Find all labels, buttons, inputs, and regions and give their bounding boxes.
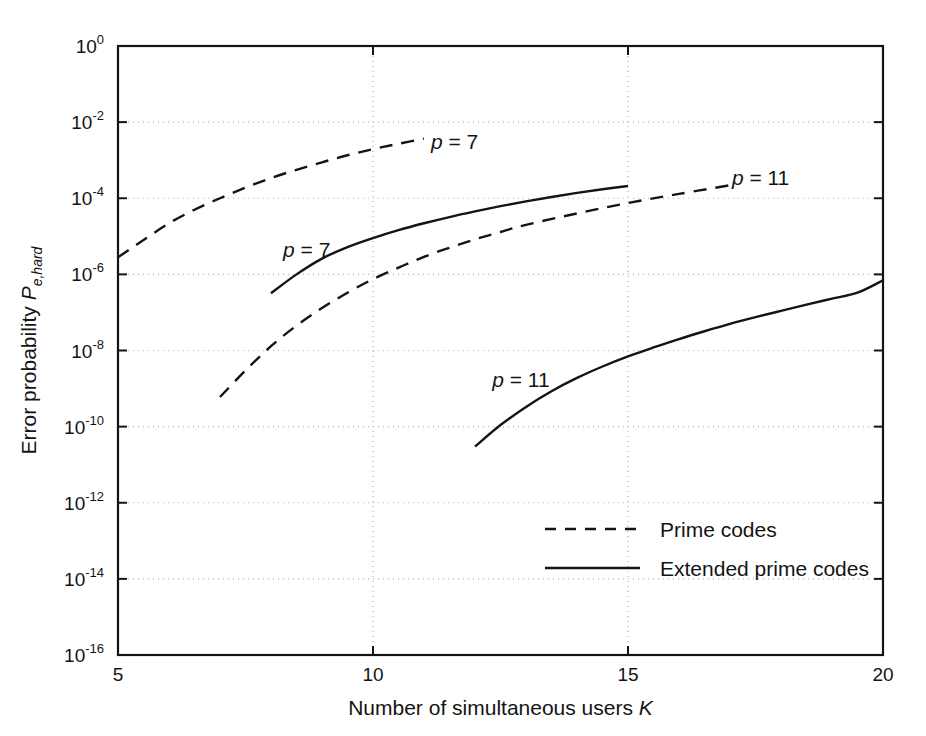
chart-background [0,0,926,736]
curve-annotation-3: p = 11 [491,368,549,391]
x-tick-label: 15 [617,664,638,685]
legend-label-1: Extended prime codes [660,557,869,580]
curve-annotation-1: p = 7 [282,238,330,261]
x-tick-label: 20 [872,664,893,685]
x-tick-label: 10 [362,664,383,685]
x-tick-label: 5 [113,664,124,685]
curve-annotation-2: p = 11 [731,166,789,189]
chart-canvas: 5101520 10010-210-410-610-810-1010-1210-… [0,0,926,736]
figure-container: 5101520 10010-210-410-610-810-1010-1210-… [0,0,926,736]
curve-annotation-0: p = 7 [430,130,478,153]
legend-label-0: Prime codes [660,518,777,541]
x-axis-title: Number of simultaneous users K [348,696,654,719]
